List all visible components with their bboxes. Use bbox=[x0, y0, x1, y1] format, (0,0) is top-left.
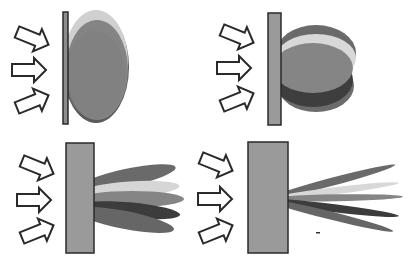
incident-arrows bbox=[12, 21, 53, 119]
scattering-diagram bbox=[0, 0, 412, 266]
arrow-icon bbox=[197, 214, 238, 249]
surface-plate bbox=[268, 13, 281, 125]
surface-block bbox=[248, 142, 288, 253]
arrow-icon bbox=[18, 150, 59, 185]
arrow-icon bbox=[12, 58, 46, 82]
surface-plate bbox=[63, 12, 68, 124]
arrow-icon bbox=[198, 187, 232, 211]
arrow-icon bbox=[13, 21, 54, 56]
panel-top-left bbox=[12, 10, 129, 124]
surface-block bbox=[66, 143, 94, 253]
reflection-lobes bbox=[63, 10, 129, 123]
arrow-icon bbox=[197, 147, 238, 182]
arrow-icon bbox=[218, 19, 259, 54]
incident-arrows bbox=[17, 150, 58, 249]
arrow-icon bbox=[217, 56, 251, 80]
arrow-icon bbox=[17, 188, 51, 212]
arrow-icon bbox=[13, 84, 54, 119]
panel-top-right bbox=[217, 13, 356, 125]
incident-arrows bbox=[197, 147, 238, 249]
panel-bottom-left bbox=[17, 143, 184, 253]
arrow-icon bbox=[218, 82, 259, 117]
reflection-lobes bbox=[273, 25, 356, 112]
arrow-icon bbox=[18, 214, 59, 249]
incident-arrows bbox=[217, 19, 258, 117]
panel-bottom-right bbox=[197, 142, 404, 253]
small-mark bbox=[316, 232, 320, 234]
